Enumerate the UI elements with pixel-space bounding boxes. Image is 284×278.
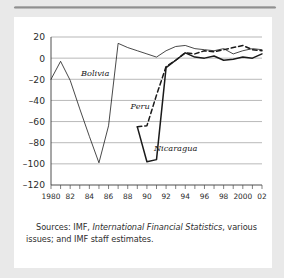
x-tick-label: 86 xyxy=(104,192,114,201)
x-tick-label: 94 xyxy=(181,192,191,201)
y-tick-label: –80 xyxy=(29,137,45,148)
series-label-peru: Peru xyxy=(130,101,150,111)
x-tick-label: 92 xyxy=(161,192,170,201)
chart-figure: 200–20–40–60–80–100–12019808284868890929… xyxy=(14,17,272,222)
x-tick-label: 98 xyxy=(219,192,229,201)
series-label-nicaragua: Nicaragua xyxy=(153,143,198,153)
series-label-bolivia: Bolivia xyxy=(80,68,109,78)
source-note-title: International Financial Statistics xyxy=(92,222,222,232)
figure-card: 200–20–40–60–80–100–12019808284868890929… xyxy=(14,17,272,268)
x-tick-label: 82 xyxy=(65,192,74,201)
source-note: Sources: IMF, International Financial St… xyxy=(14,222,272,245)
y-tick-label: 20 xyxy=(33,31,45,42)
y-tick-label: –40 xyxy=(29,95,45,106)
x-tick-label: 2000 xyxy=(233,192,252,201)
line-chart: 200–20–40–60–80–100–12019808284868890929… xyxy=(14,17,272,222)
y-tick-label: –100 xyxy=(23,158,45,169)
x-tick-label: 1980 xyxy=(42,192,61,201)
x-tick-label: 02 xyxy=(257,192,266,201)
x-tick-label: 88 xyxy=(123,192,133,201)
top-divider-rule xyxy=(14,6,276,9)
source-note-prefix: Sources: IMF, xyxy=(26,222,92,232)
x-tick-label: 90 xyxy=(142,192,152,201)
x-tick-label: 96 xyxy=(200,192,210,201)
page-background: 200–20–40–60–80–100–12019808284868890929… xyxy=(0,0,284,278)
y-tick-label: 0 xyxy=(39,53,45,64)
y-tick-label: –20 xyxy=(29,74,45,85)
y-tick-label: –120 xyxy=(23,179,45,190)
x-tick-label: 84 xyxy=(85,192,95,201)
y-tick-label: –60 xyxy=(29,116,45,127)
